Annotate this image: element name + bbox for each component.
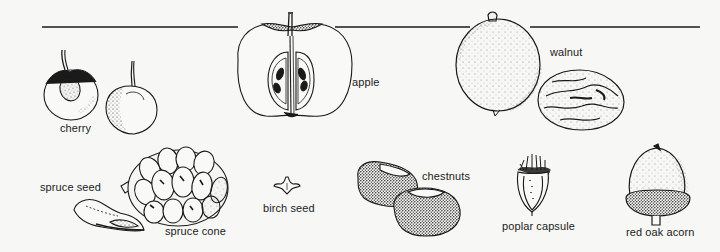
poplar-capsule-label: poplar capsule: [502, 221, 575, 232]
birch-seed-icon: [274, 177, 300, 194]
birch-seed-label: birch seed: [263, 203, 315, 214]
chestnuts-label: chestnuts: [422, 171, 470, 182]
fruit-and-seed-illustration: cherry apple walnut spruce seed spruce c…: [0, 0, 720, 252]
poplar-capsule-icon: [518, 154, 550, 216]
walnut-icon: [456, 12, 624, 130]
acorn-icon: [626, 144, 690, 225]
spruce-seed-label: spruce seed: [40, 182, 101, 193]
walnut-label: walnut: [550, 47, 582, 58]
cherry-label: cherry: [60, 123, 91, 134]
spruce-cone-icon: [121, 146, 230, 226]
apple-cross-section-icon: [238, 13, 352, 117]
apple-label: apple: [352, 77, 379, 88]
spruce-cone-label: spruce cone: [165, 226, 226, 237]
illustration-canvas: [0, 0, 720, 252]
red-oak-acorn-label: red oak acorn: [626, 227, 695, 238]
